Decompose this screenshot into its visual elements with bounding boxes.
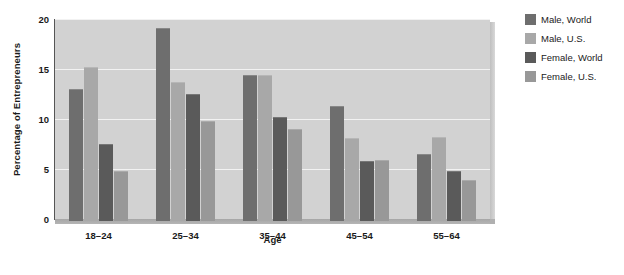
bar (360, 161, 374, 221)
bar-chart: Percentage of Entrepreneurs 05101520 18–… (0, 0, 624, 275)
bar-highlight (330, 106, 344, 107)
bar-highlight (360, 161, 374, 162)
bar-highlight (432, 137, 446, 138)
bar (99, 144, 113, 221)
plot-wrap: 05101520 18–2425–3435–4445–5455–64 (55, 19, 495, 221)
x-axis-title: Age (55, 234, 490, 245)
bar (345, 138, 359, 221)
y-axis-tick-label: 20 (38, 14, 49, 25)
bar-highlight (156, 28, 170, 29)
legend-label: Female, U.S. (541, 71, 596, 82)
bar (462, 180, 476, 221)
bar (258, 75, 272, 221)
plot-3d-right-face (490, 22, 495, 222)
bar-highlight (243, 75, 257, 76)
legend-item: Male, World (525, 10, 603, 29)
legend-color-swatch (525, 33, 536, 44)
bar (186, 94, 200, 221)
bar-highlight (375, 160, 389, 161)
bar (156, 28, 170, 221)
bar-highlight (186, 94, 200, 95)
legend-label: Male, U.S. (541, 33, 585, 44)
bar (432, 137, 446, 221)
legend-item: Female, World (525, 48, 603, 67)
y-axis-tick-label: 15 (38, 64, 49, 75)
bar (447, 171, 461, 221)
y-axis-tick-label: 0 (44, 214, 49, 225)
bar-highlight (201, 121, 215, 122)
bar (375, 160, 389, 221)
bar-highlight (171, 82, 185, 83)
bar-highlight (273, 117, 287, 118)
bar (273, 117, 287, 221)
legend-item: Male, U.S. (525, 29, 603, 48)
bar-highlight (288, 129, 302, 130)
bar (114, 171, 128, 221)
bar-highlight (99, 144, 113, 145)
bar (243, 75, 257, 221)
y-axis-tick-label: 10 (38, 114, 49, 125)
legend-color-swatch (525, 14, 536, 25)
bar-highlight (258, 75, 272, 76)
gridline (55, 19, 490, 20)
legend-color-swatch (525, 71, 536, 82)
y-axis-tick-label: 5 (44, 164, 49, 175)
legend: Male, WorldMale, U.S.Female, WorldFemale… (525, 10, 603, 86)
legend-item: Female, U.S. (525, 67, 603, 86)
bar-highlight (114, 171, 128, 172)
gridline (55, 69, 490, 70)
bar (69, 89, 83, 221)
legend-label: Male, World (541, 14, 592, 25)
bar (84, 67, 98, 221)
bar-highlight (417, 154, 431, 155)
legend-color-swatch (525, 52, 536, 63)
legend-label: Female, World (541, 52, 603, 63)
plot-3d-corner (490, 219, 495, 224)
bar (330, 106, 344, 221)
bar-highlight (447, 171, 461, 172)
bar-highlight (69, 89, 83, 90)
bar (201, 121, 215, 221)
bar (288, 129, 302, 221)
bar (417, 154, 431, 221)
bar-highlight (345, 138, 359, 139)
bar-highlight (84, 67, 98, 68)
bar-highlight (462, 180, 476, 181)
y-axis-title: Percentage of Entrepreneurs (11, 10, 22, 210)
bar (171, 82, 185, 221)
